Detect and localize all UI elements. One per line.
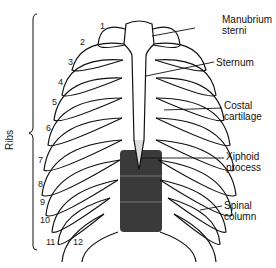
rib-number-11: 11 xyxy=(46,238,55,247)
rib-number-6: 6 xyxy=(46,124,51,133)
rib-number-3: 3 xyxy=(68,58,73,67)
rib-number-7: 7 xyxy=(38,156,43,165)
rib-number-10: 10 xyxy=(40,216,50,225)
ribs-label: Ribs xyxy=(4,130,15,150)
spinal-column-shape xyxy=(120,150,162,232)
rib-number-4: 4 xyxy=(58,78,63,87)
rib-cage-diagram: Ribs Manubriumsterni Sternum Costalcarti… xyxy=(0,0,276,268)
sternum-shape xyxy=(124,21,154,170)
label-manubrium-sterni: Manubriumsterni xyxy=(222,14,272,36)
rib-cage-illustration xyxy=(0,0,276,268)
rib-number-9: 9 xyxy=(40,198,45,207)
label-sternum: Sternum xyxy=(216,57,254,68)
label-costal-cartilage: Costalcartilage xyxy=(224,100,262,122)
label-spinal-column: Spinalcolumn xyxy=(224,200,256,222)
rib-number-2: 2 xyxy=(80,38,85,47)
rib-number-12: 12 xyxy=(73,238,83,247)
rib-number-5: 5 xyxy=(52,98,57,107)
ribs-bracket xyxy=(29,14,37,250)
left-ribs xyxy=(42,27,128,262)
rib-number-1: 1 xyxy=(100,22,105,31)
label-xiphoid-process: Xiphoidprocess xyxy=(226,151,261,173)
rib-number-8: 8 xyxy=(38,180,43,189)
